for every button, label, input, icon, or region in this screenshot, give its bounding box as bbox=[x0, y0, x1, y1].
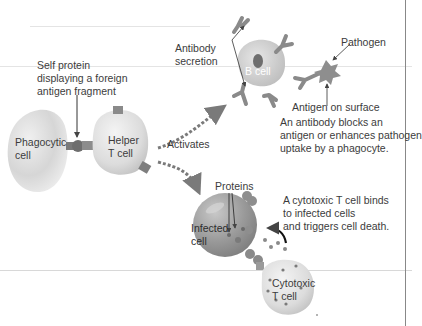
tcr-connector bbox=[245, 249, 264, 270]
label-antigen-on-surface: Antigen on surface bbox=[292, 101, 380, 114]
b-cell bbox=[238, 40, 285, 87]
label-helper-t-cell: Helper T cell bbox=[108, 134, 139, 160]
label-antibody-secretion: Antibody secretion bbox=[175, 42, 218, 68]
label-antibody-note: An antibody blocks an antigen or enhance… bbox=[280, 116, 422, 155]
label-cytotoxic-note: A cytotoxic T cell binds to infected cel… bbox=[283, 194, 389, 233]
label-phagocytic-cell: Phagocytic cell bbox=[15, 136, 66, 162]
label-activates: Activates bbox=[167, 138, 210, 151]
label-b-cell: B cell bbox=[245, 65, 271, 78]
pathogen bbox=[314, 60, 341, 85]
label-self-protein: Self protein displaying a foreign antige… bbox=[37, 59, 127, 98]
granules bbox=[263, 238, 287, 251]
label-pathogen: Pathogen bbox=[341, 36, 386, 49]
label-cytotoxic-t-cell: Cytotoxic T cell bbox=[272, 277, 315, 303]
label-infected-cell: Infected cell bbox=[191, 222, 228, 248]
self-protein-complex bbox=[66, 140, 94, 152]
label-proteins: Proteins bbox=[215, 180, 254, 193]
